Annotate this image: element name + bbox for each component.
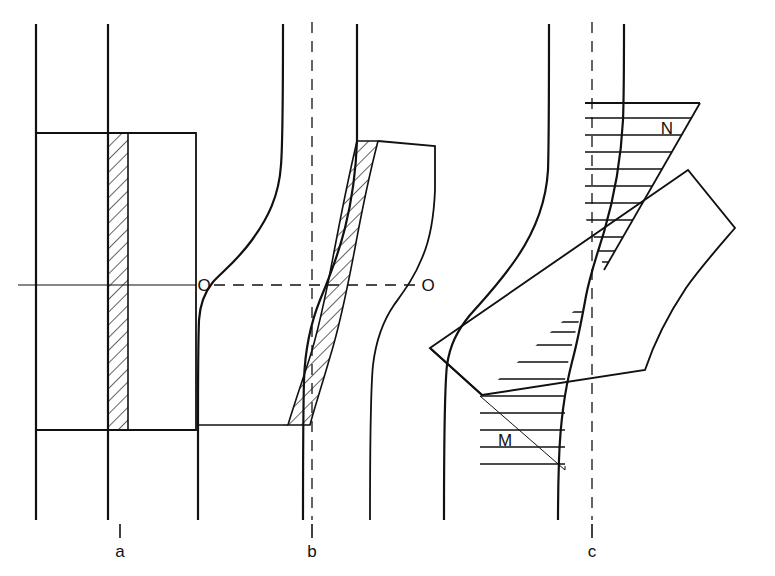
panel-b-label: b [307,542,316,561]
origin-label-right: O [421,276,434,295]
origin-label-left: O [197,276,210,295]
region-label-m: M [498,431,512,450]
panel-a-marker-band [108,133,128,430]
region-label-n: N [661,119,673,138]
diagram-root: a O O b [0,0,775,576]
panel-c-label: c [588,542,597,561]
diagram-canvas: a O O b [0,0,775,576]
panel-a-label: a [115,542,125,561]
